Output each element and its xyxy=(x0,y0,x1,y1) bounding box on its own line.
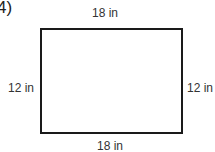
top-side-label: 18 in xyxy=(92,6,118,20)
left-side-label: 12 in xyxy=(8,81,34,95)
problem-number: 4) xyxy=(0,0,12,18)
bottom-side-label: 18 in xyxy=(97,139,123,152)
right-side-label: 12 in xyxy=(187,81,213,95)
rectangle-shape xyxy=(40,28,183,134)
